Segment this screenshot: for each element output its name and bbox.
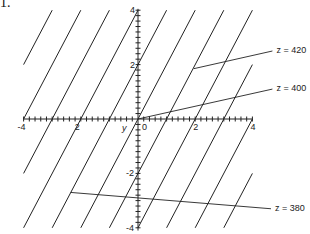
x-tick-label: 0 xyxy=(142,123,147,132)
callout-line xyxy=(194,51,273,69)
axis-label: y xyxy=(122,124,127,133)
x-tick-label: 4 xyxy=(250,123,255,132)
level-line xyxy=(224,173,253,227)
y-tick-label: -4 xyxy=(126,224,134,233)
y-tick-label: -2 xyxy=(126,169,134,178)
y-tick-label: 2 xyxy=(130,61,135,70)
y-tick-label: 4 xyxy=(130,6,135,15)
x-tick-label: -4 xyxy=(18,123,26,132)
contour-label: z = 400 xyxy=(276,84,306,93)
level-line xyxy=(24,10,110,173)
axes xyxy=(24,9,253,231)
x-tick-label: 2 xyxy=(75,123,80,132)
contour-diagram xyxy=(0,0,310,234)
contour-label: z = 420 xyxy=(276,46,306,55)
level-line xyxy=(195,119,252,228)
contour-label: z = 380 xyxy=(275,204,305,213)
callout-line xyxy=(138,89,272,119)
level-line xyxy=(24,10,81,119)
x-tick-label: 2 xyxy=(193,123,198,132)
callout-lines xyxy=(71,51,273,209)
level-line xyxy=(24,10,53,64)
